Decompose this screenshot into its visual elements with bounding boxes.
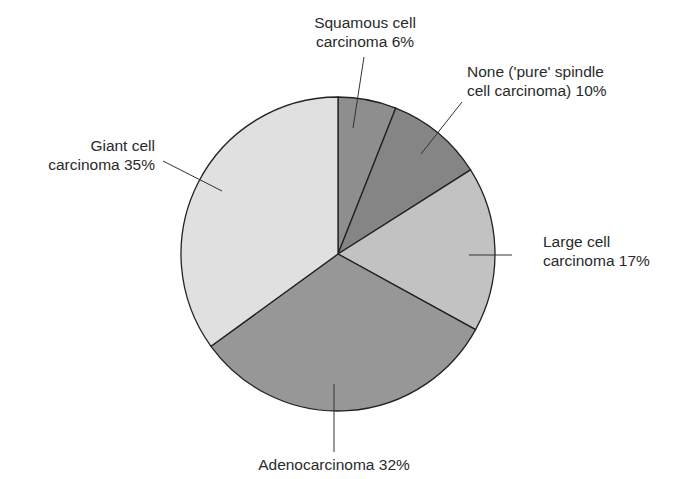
- label-giant: Giant cell carcinoma 35%: [20, 136, 155, 174]
- label-none-line1: None ('pure' spindle: [467, 62, 607, 81]
- label-adeno-line1: Adenocarcinoma 32%: [234, 455, 434, 474]
- label-large-line1: Large cell: [543, 232, 650, 251]
- label-squamous: Squamous cell carcinoma 6%: [310, 13, 420, 51]
- label-giant-line2: carcinoma 35%: [20, 155, 155, 174]
- label-none: None ('pure' spindle cell carcinoma) 10%: [467, 62, 607, 100]
- label-adeno: Adenocarcinoma 32%: [234, 455, 434, 474]
- pie-slices: [181, 97, 495, 411]
- label-giant-line1: Giant cell: [20, 136, 155, 155]
- label-squamous-line1: Squamous cell: [310, 13, 420, 32]
- label-none-line2: cell carcinoma) 10%: [467, 81, 607, 100]
- label-squamous-line2: carcinoma 6%: [310, 32, 420, 51]
- label-large: Large cell carcinoma 17%: [543, 232, 650, 270]
- label-large-line2: carcinoma 17%: [543, 251, 650, 270]
